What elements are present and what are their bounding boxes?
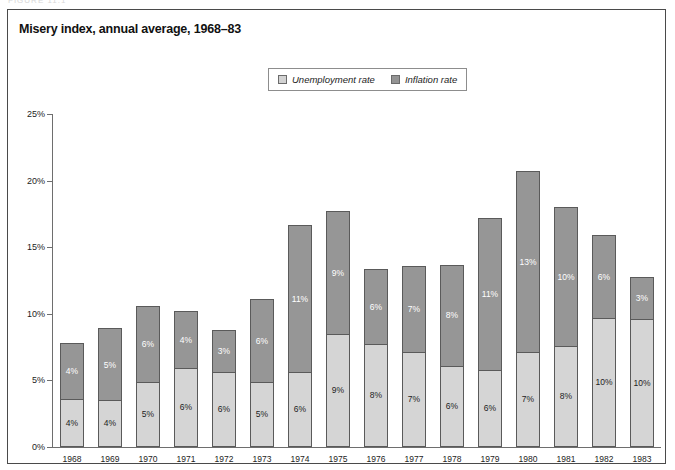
- bar-value-label: 4%: [66, 419, 78, 428]
- bar-value-label: 10%: [557, 273, 574, 282]
- stacked-bar[interactable]: 13%7%: [516, 171, 540, 447]
- bar-segment-unemployment[interactable]: 7%: [402, 352, 426, 447]
- bar-segment-inflation[interactable]: 4%: [174, 311, 198, 368]
- bar-segment-unemployment[interactable]: 6%: [174, 368, 198, 447]
- x-tick-label: 1977: [395, 454, 433, 464]
- y-tick-label: 10%: [27, 309, 45, 319]
- bar-segment-inflation[interactable]: 10%: [554, 207, 578, 346]
- bar-column[interactable]: 13%7%: [509, 114, 547, 447]
- bar-segment-unemployment[interactable]: 7%: [516, 352, 540, 447]
- bar-segment-unemployment[interactable]: 10%: [630, 319, 654, 447]
- bar-segment-inflation[interactable]: 3%: [630, 277, 654, 320]
- figure-frame: Misery index, annual average, 1968–83 Un…: [7, 9, 666, 464]
- bar-column[interactable]: 6%5%: [243, 114, 281, 447]
- bar-value-label: 5%: [142, 410, 154, 419]
- stacked-bar[interactable]: 11%6%: [478, 218, 502, 447]
- bar-segment-inflation[interactable]: 6%: [136, 306, 160, 382]
- bar-value-label: 6%: [256, 337, 268, 346]
- legend-item-inflation[interactable]: Inflation rate: [391, 74, 457, 85]
- bar-segment-inflation[interactable]: 6%: [364, 269, 388, 345]
- bar-value-label: 7%: [408, 305, 420, 314]
- bar-segment-unemployment[interactable]: 9%: [326, 334, 350, 447]
- bar-segment-unemployment[interactable]: 5%: [250, 382, 274, 447]
- x-axis: [52, 447, 661, 448]
- bar-column[interactable]: 3%6%: [205, 114, 243, 447]
- bar-column[interactable]: 6%5%: [129, 114, 167, 447]
- y-tick-mark: [47, 447, 52, 448]
- x-tick-label: 1980: [509, 454, 547, 464]
- stacked-bar[interactable]: 3%10%: [630, 277, 654, 447]
- bar-value-label: 3%: [636, 294, 648, 303]
- bar-segment-unemployment[interactable]: 4%: [60, 399, 84, 447]
- legend-item-unemployment[interactable]: Unemployment rate: [278, 74, 375, 85]
- stacked-bar[interactable]: 6%5%: [136, 306, 160, 447]
- unemployment-swatch-icon: [278, 75, 287, 84]
- bar-segment-unemployment[interactable]: 10%: [592, 318, 616, 447]
- x-tick-label: 1973: [243, 454, 281, 464]
- stacked-bar[interactable]: 8%6%: [440, 265, 464, 447]
- bar-column[interactable]: 6%10%: [585, 114, 623, 447]
- bar-value-label: 9%: [332, 386, 344, 395]
- bar-segment-unemployment[interactable]: 4%: [98, 400, 122, 447]
- bar-column[interactable]: 7%7%: [395, 114, 433, 447]
- stacked-bar[interactable]: 3%6%: [212, 330, 236, 447]
- bar-column[interactable]: 4%6%: [167, 114, 205, 447]
- bar-value-label: 10%: [595, 378, 612, 387]
- stacked-bar[interactable]: 6%8%: [364, 269, 388, 447]
- bar-column[interactable]: 10%8%: [547, 114, 585, 447]
- bar-segment-inflation[interactable]: 6%: [592, 235, 616, 318]
- y-tick-mark: [47, 314, 52, 315]
- bar-segment-unemployment[interactable]: 8%: [554, 346, 578, 447]
- bar-group: 4%4%5%4%6%5%4%6%3%6%6%5%11%6%9%9%6%8%7%7…: [53, 114, 661, 447]
- y-tick-label: 20%: [27, 176, 45, 186]
- bar-segment-inflation[interactable]: 7%: [402, 266, 426, 353]
- x-tick-label: 1975: [319, 454, 357, 464]
- bar-column[interactable]: 11%6%: [471, 114, 509, 447]
- bar-value-label: 6%: [598, 273, 610, 282]
- bar-segment-inflation[interactable]: 6%: [250, 299, 274, 382]
- bar-column[interactable]: 3%10%: [623, 114, 661, 447]
- bar-value-label: 8%: [370, 391, 382, 400]
- bar-column[interactable]: 9%9%: [319, 114, 357, 447]
- bar-segment-inflation[interactable]: 4%: [60, 343, 84, 399]
- stacked-bar[interactable]: 4%6%: [174, 311, 198, 447]
- bar-segment-inflation[interactable]: 8%: [440, 265, 464, 366]
- chart-legend: Unemployment rate Inflation rate: [268, 68, 467, 91]
- x-tick-label: 1969: [91, 454, 129, 464]
- bar-value-label: 5%: [256, 410, 268, 419]
- bar-segment-unemployment[interactable]: 5%: [136, 382, 160, 447]
- bar-segment-inflation[interactable]: 13%: [516, 171, 540, 352]
- x-tick-label: 1968: [53, 454, 91, 464]
- bar-segment-unemployment[interactable]: 6%: [212, 372, 236, 447]
- bar-value-label: 11%: [482, 290, 498, 299]
- bar-column[interactable]: 6%8%: [357, 114, 395, 447]
- bar-column[interactable]: 11%6%: [281, 114, 319, 447]
- stacked-bar[interactable]: 6%10%: [592, 235, 616, 447]
- bar-segment-unemployment[interactable]: 6%: [478, 370, 502, 447]
- page-title: Misery index, annual average, 1968–83: [19, 22, 241, 36]
- stacked-bar[interactable]: 11%6%: [288, 225, 312, 447]
- bar-segment-inflation[interactable]: 11%: [288, 225, 312, 373]
- stacked-bar[interactable]: 6%5%: [250, 299, 274, 447]
- stacked-bar[interactable]: 4%4%: [60, 343, 84, 447]
- x-tick-label: 1983: [623, 454, 661, 464]
- bar-segment-unemployment[interactable]: 6%: [440, 366, 464, 447]
- bar-segment-inflation[interactable]: 3%: [212, 330, 236, 373]
- bar-segment-inflation[interactable]: 5%: [98, 328, 122, 400]
- stacked-bar[interactable]: 10%8%: [554, 207, 578, 447]
- bar-segment-inflation[interactable]: 9%: [326, 211, 350, 334]
- stacked-bar[interactable]: 9%9%: [326, 211, 350, 447]
- bar-value-label: 9%: [332, 269, 344, 278]
- bar-segment-unemployment[interactable]: 6%: [288, 372, 312, 447]
- bar-column[interactable]: 4%4%: [53, 114, 91, 447]
- x-tick-label: 1982: [585, 454, 623, 464]
- stacked-bar[interactable]: 7%7%: [402, 266, 426, 447]
- bar-segment-inflation[interactable]: 11%: [478, 218, 502, 370]
- bar-column[interactable]: 5%4%: [91, 114, 129, 447]
- stacked-bar[interactable]: 5%4%: [98, 328, 122, 447]
- legend-label-inflation: Inflation rate: [405, 74, 457, 85]
- bar-segment-unemployment[interactable]: 8%: [364, 344, 388, 447]
- bar-column[interactable]: 8%6%: [433, 114, 471, 447]
- x-tick-label: 1970: [129, 454, 167, 464]
- figure-caption-ghost: FIGURE 11.1: [8, 0, 66, 5]
